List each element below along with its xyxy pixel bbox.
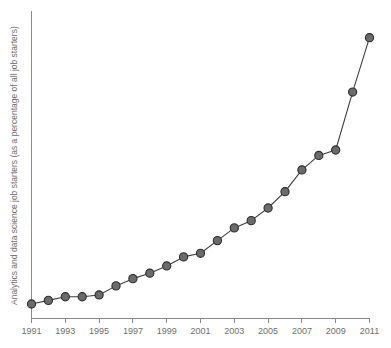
data-point-marker — [247, 217, 255, 225]
data-point-marker — [365, 34, 373, 42]
data-point-marker — [78, 293, 86, 301]
data-point-marker — [281, 188, 289, 196]
series-line — [32, 38, 370, 304]
data-point-marker — [61, 293, 69, 301]
x-axis-tick-label: 2007 — [292, 326, 312, 336]
x-axis-tick-label: 1995 — [89, 326, 109, 336]
y-axis-title: Analytics and data science job starters … — [9, 26, 19, 305]
chart-axes — [32, 11, 370, 319]
x-axis-tick-label: 1999 — [157, 326, 177, 336]
x-axis-tick-label: 1997 — [123, 326, 143, 336]
x-axis-tick-labels: 1991199319951997199920012003200520072009… — [21, 326, 379, 336]
data-point-marker — [44, 296, 52, 304]
data-point-marker — [129, 275, 137, 283]
x-axis-tick-label: 2009 — [326, 326, 346, 336]
data-point-marker — [163, 262, 171, 270]
x-axis-tick-label: 1993 — [55, 326, 75, 336]
x-axis-tick-label: 2005 — [258, 326, 278, 336]
data-point-marker — [213, 236, 221, 244]
data-point-marker — [27, 300, 35, 308]
data-point-marker — [230, 224, 238, 232]
data-point-marker — [146, 269, 154, 277]
data-point-marker — [112, 282, 120, 290]
x-axis-tick-label: 2011 — [360, 326, 379, 336]
chart-container: 1991199319951997199920012003200520072009… — [0, 0, 391, 348]
x-axis-tick-label: 2003 — [224, 326, 244, 336]
y-axis-title-text: Analytics and data science job starters … — [9, 26, 19, 305]
data-point-marker — [315, 151, 323, 159]
x-axis-ticks — [32, 319, 370, 324]
data-point-marker — [349, 88, 357, 96]
data-point-markers — [27, 34, 373, 309]
data-point-marker — [95, 291, 103, 299]
data-point-marker — [196, 249, 204, 257]
data-point-marker — [332, 146, 340, 154]
data-point-marker — [180, 253, 188, 261]
line-chart: 1991199319951997199920012003200520072009… — [0, 0, 391, 348]
data-point-marker — [264, 204, 272, 212]
x-axis-tick-label: 1991 — [21, 326, 41, 336]
x-axis-tick-label: 2001 — [190, 326, 210, 336]
data-point-marker — [298, 166, 306, 174]
data-series — [32, 38, 370, 304]
